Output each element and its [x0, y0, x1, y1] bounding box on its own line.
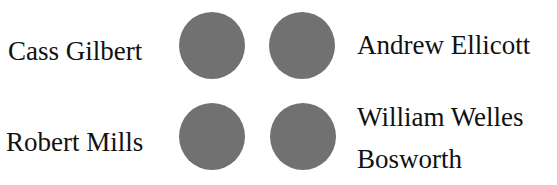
label-line-1: William Welles: [357, 99, 523, 135]
circle-bottom-right: [270, 103, 336, 170]
circle-bottom-left: [179, 103, 245, 170]
label-line-2: Bosworth: [357, 141, 523, 177]
label-william-welles-bosworth: William Welles Bosworth: [357, 99, 523, 177]
circle-top-right: [269, 12, 335, 79]
label-andrew-ellicott: Andrew Ellicott: [357, 27, 530, 63]
label-cass-gilbert: Cass Gilbert: [8, 33, 142, 69]
circle-top-left: [179, 12, 245, 79]
label-robert-mills: Robert Mills: [6, 124, 143, 160]
